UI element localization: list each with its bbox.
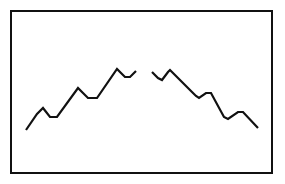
figure-container <box>0 0 285 184</box>
mountain-line-figure <box>0 0 285 184</box>
frame-border <box>11 11 272 173</box>
